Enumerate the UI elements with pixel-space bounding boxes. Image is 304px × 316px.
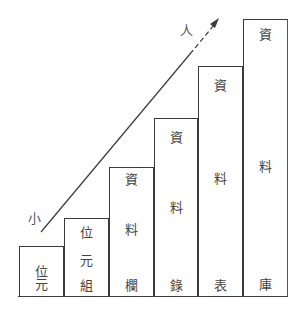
column-char: 料 — [155, 201, 197, 215]
column-char: 元 — [20, 278, 63, 292]
small-label: 小 — [28, 208, 41, 227]
column-char: 資 — [199, 79, 242, 93]
data-hierarchy-diagram: 小 人 位 元 位 元 組 資 料 欄 資 料 錄 資 料 表 資 料 庫 — [0, 0, 304, 316]
column-char: 資 — [110, 173, 153, 187]
baseline-divider — [18, 296, 288, 297]
column-field: 資 料 欄 — [109, 167, 154, 297]
column-char: 料 — [110, 223, 153, 237]
column-char: 位 — [65, 226, 108, 240]
column-database: 資 料 庫 — [243, 19, 288, 297]
column-table: 資 料 表 — [198, 66, 243, 297]
column-record: 資 料 錄 — [154, 118, 198, 297]
large-label: 人 — [180, 20, 193, 39]
column-char: 庫 — [244, 278, 287, 292]
column-char: 料 — [244, 160, 287, 174]
column-char: 錄 — [155, 279, 197, 293]
column-char: 元 — [65, 254, 108, 268]
column-char: 欄 — [110, 279, 153, 293]
column-byte: 位 元 組 — [64, 218, 109, 297]
column-char: 料 — [199, 172, 242, 186]
column-char: 資 — [244, 28, 287, 42]
column-char: 組 — [65, 279, 108, 293]
column-char: 表 — [199, 279, 242, 293]
column-bit: 位 元 — [19, 246, 64, 297]
column-char: 資 — [155, 131, 197, 145]
